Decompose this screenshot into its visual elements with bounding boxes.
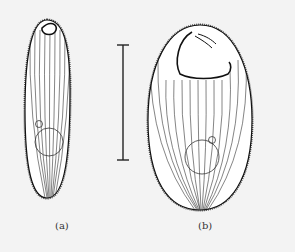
scale-bar xyxy=(117,45,129,160)
cell-b xyxy=(148,25,252,210)
oral-apparatus-a xyxy=(42,24,56,35)
cell-a xyxy=(25,20,70,198)
panel-label-a: (a) xyxy=(55,220,69,231)
ciliate-illustration xyxy=(0,0,295,252)
panel-label-b: (b) xyxy=(198,220,212,231)
figure-canvas: (a) (b) xyxy=(0,0,295,252)
